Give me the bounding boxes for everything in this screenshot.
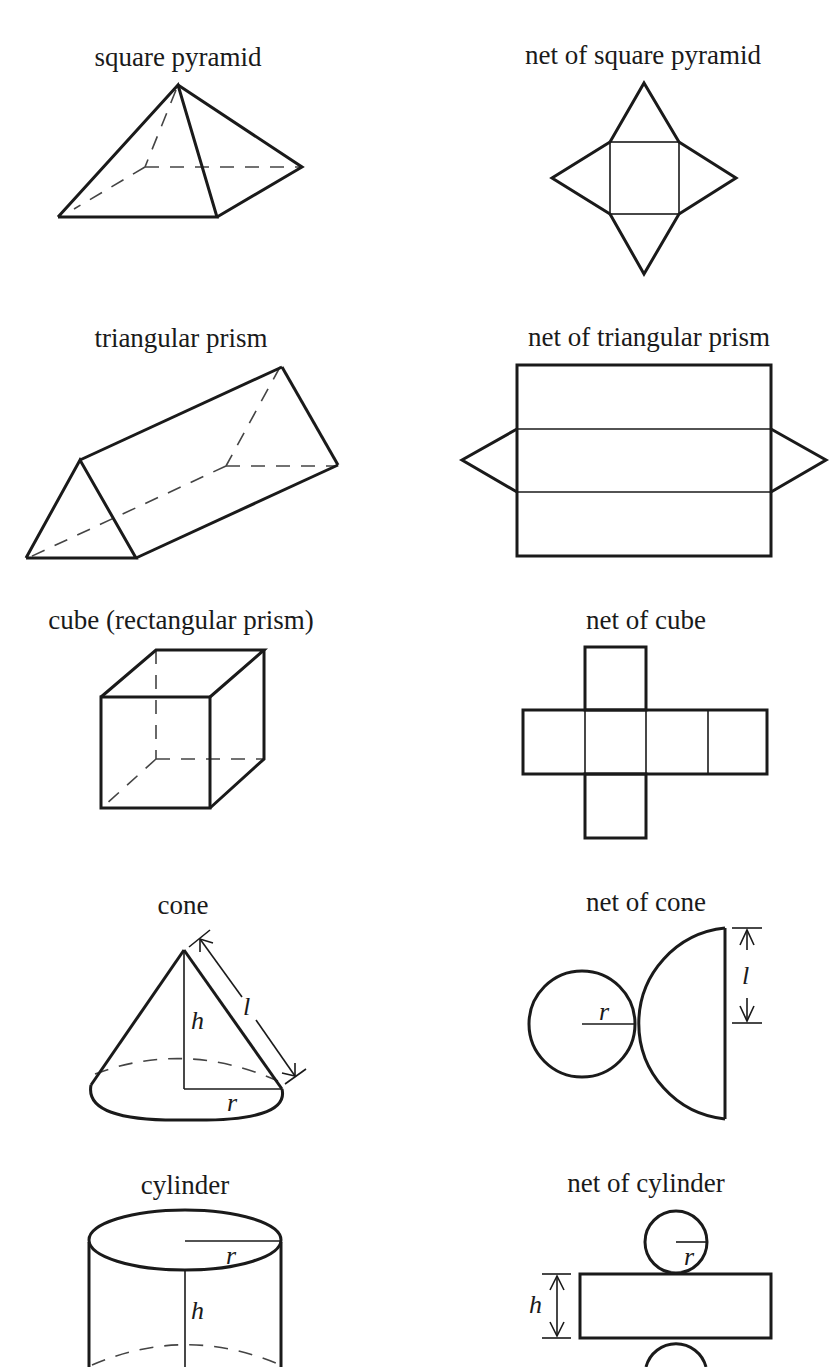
net-cone-slant-var: l [742,963,749,989]
net-cone-diagram [529,928,762,1119]
cylinder-diagram [89,1210,281,1367]
cube-diagram [101,650,264,808]
triangular-prism-diagram [26,367,338,558]
net-cylinder-diagram [542,1211,771,1367]
cylinder-height-var: h [191,1298,204,1324]
net-cylinder-height-var: h [529,1292,542,1318]
cone-slant-var: l [243,994,250,1020]
net-triangular-prism-diagram [462,365,826,556]
cone-height-var: h [191,1008,204,1034]
square-pyramid-diagram [58,85,302,217]
net-cone-radius-var: r [599,999,609,1025]
net-cylinder-radius-var: r [684,1244,694,1270]
cylinder-radius-var: r [226,1243,236,1269]
cone-radius-var: r [227,1090,237,1116]
net-cube-diagram [523,647,767,838]
net-square-pyramid-diagram [552,83,736,274]
